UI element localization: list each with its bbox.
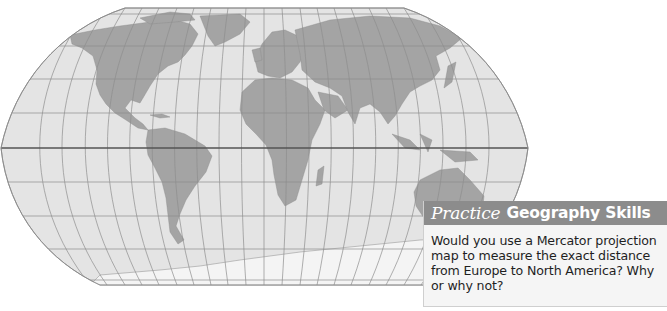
question-line: from Europe to North America? Why <box>431 263 661 278</box>
question-line: Would you use a Mercator projection <box>431 233 661 248</box>
practice-header-italic: Practice <box>431 203 500 223</box>
practice-header: Practice Geography Skills <box>424 201 667 225</box>
question-line: or why not? <box>431 278 661 293</box>
practice-header-title: Geography Skills <box>506 204 650 222</box>
question-line: map to measure the exact distance <box>431 248 661 263</box>
practice-geography-skills-box: Practice Geography Skills Would you use … <box>423 201 667 307</box>
practice-question: Would you use a Mercator projection map … <box>424 225 667 293</box>
